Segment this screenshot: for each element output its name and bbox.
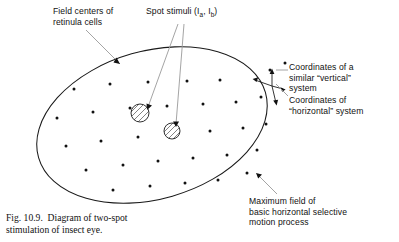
spot-stimulus-b	[162, 117, 182, 141]
retinula-dot	[217, 179, 220, 182]
figure-page: Field centers of retinula cells Spot sti…	[0, 0, 399, 242]
spot-stimuli-suffix: )	[214, 6, 217, 16]
spot-stimulus-a	[128, 96, 152, 128]
retinula-dot	[242, 127, 245, 130]
retinula-dot	[137, 136, 140, 139]
label-spot-stimuli: Spot stimuli (Ia, Ib)	[146, 6, 217, 20]
retinula-dot	[246, 172, 249, 175]
retinula-dot	[65, 145, 68, 148]
retinula-dot	[209, 130, 212, 133]
leader-spot-b	[173, 24, 184, 127]
retinula-dot	[92, 111, 95, 114]
label-maximum-field: Maximum field of basic horizontal select…	[249, 196, 347, 228]
leader-field-centers	[86, 30, 120, 64]
retinula-dot	[265, 123, 268, 126]
label-vertical-coordinate-system: Coordinates of a similar “vertical” syst…	[289, 62, 354, 94]
label-horizontal-coordinate-system: Coordinates of “horizontal” system	[289, 95, 364, 116]
coordinate-axes-cluster	[253, 69, 286, 106]
leader-spot-a	[147, 24, 179, 110]
retinula-dot	[100, 140, 103, 143]
eye-field-outline	[18, 21, 286, 228]
leader-maximum-field	[256, 173, 277, 194]
retinula-dot	[73, 88, 76, 91]
retinula-dot	[184, 182, 187, 185]
retinula-dot	[112, 189, 115, 192]
retinula-dot	[202, 103, 205, 106]
retinula-dot	[85, 169, 88, 172]
retinula-dot	[226, 154, 229, 157]
retinula-dot	[186, 80, 189, 83]
retinula-dot	[122, 164, 125, 167]
spot-stimuli-mid: , I	[203, 6, 210, 16]
retinula-dot	[109, 83, 112, 86]
retinula-dot	[129, 107, 132, 110]
retinula-dot	[192, 157, 195, 160]
retinula-dot	[235, 101, 238, 104]
retinula-dot-outside	[284, 62, 287, 65]
axis-arrow-down	[272, 86, 278, 106]
retinula-dot	[147, 81, 150, 84]
retinula-dot	[149, 185, 152, 188]
retinula-dot	[56, 117, 59, 120]
retinula-dot	[166, 105, 169, 108]
spot-stimuli-prefix: Spot stimuli (I	[146, 6, 200, 16]
leader-horizontal-system	[276, 84, 288, 96]
retinula-dot	[256, 149, 259, 152]
figure-caption: Fig. 10.9. Diagram of two-spot stimulati…	[6, 212, 128, 235]
retinula-dot	[219, 79, 222, 82]
retinula-dot	[157, 160, 160, 163]
retinula-dot	[260, 96, 263, 99]
label-field-centers: Field centers of retinula cells	[53, 6, 113, 27]
